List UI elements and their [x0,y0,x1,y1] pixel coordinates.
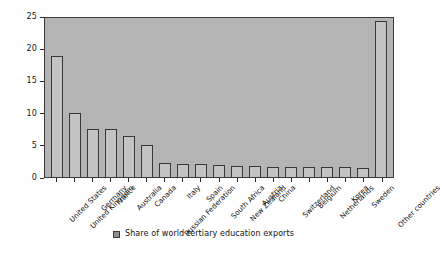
bar-slot [174,18,192,177]
y-axis-tick-label: 10 [27,110,40,118]
x-axis-label-slot: United States [47,182,65,228]
bar-slot [354,18,372,177]
legend-label: Share of world tertiary education export… [125,230,294,238]
legend: Share of world tertiary education export… [0,230,407,238]
bar-slot [102,18,120,177]
bar-slot [300,18,318,177]
bar[interactable] [141,145,152,177]
x-axis-label-slot: South Africa [210,182,228,228]
x-axis-label-slot: Netherlands [319,182,337,228]
x-axis-label-slot: Canada [138,182,156,228]
bar[interactable] [159,163,170,177]
x-axis-label-slot: Australia [119,182,137,228]
bar[interactable] [267,167,278,177]
x-axis-label-slot: France [101,182,119,228]
bar-slot [246,18,264,177]
x-axis-label-slot: Belgium [301,182,319,228]
x-axis-label-slot: Korea [337,182,355,228]
bar[interactable] [69,113,80,177]
x-axis-label-slot: United Kingdom [65,182,83,228]
x-axis-label-slot: Switzerland [282,182,300,228]
plot-area [44,17,394,178]
bar-slot [192,18,210,177]
bar-slot [336,18,354,177]
x-axis-label-slot: China [264,182,282,228]
bar-slot [318,18,336,177]
x-axis-label-slot: Other countries [373,182,391,228]
bar-slot [372,18,390,177]
bar-slot [228,18,246,177]
bar[interactable] [51,56,62,177]
bar[interactable] [357,168,368,177]
bar-slot [120,18,138,177]
bar-slot [84,18,102,177]
x-axis-label-slot: Italy [174,182,192,228]
legend-swatch-icon [113,231,120,238]
bar-slot [138,18,156,177]
bar-slot [48,18,66,177]
y-axis-tick-label: 15 [27,77,40,85]
x-axis-label-slot: Spain [192,182,210,228]
y-axis-tick-label: 5 [32,142,40,150]
bar[interactable] [303,167,314,177]
x-axis-label-slot: New Zealand [228,182,246,228]
x-axis-label-slot: Sweden [355,182,373,228]
bar[interactable] [213,165,224,177]
bar-slot [282,18,300,177]
bar[interactable] [195,164,206,177]
bar-slot [264,18,282,177]
bar[interactable] [105,129,116,177]
bar[interactable] [231,166,242,177]
bars-layer [45,18,393,177]
bar[interactable] [375,21,386,177]
y-axis: 0510152025 [0,17,44,178]
x-axis-label: Other countries [396,184,441,229]
bar[interactable] [249,166,260,177]
bar-slot [210,18,228,177]
bar[interactable] [177,164,188,177]
x-axis-labels: United StatesUnited KingdomGermanyFrance… [44,182,394,228]
x-axis-label-slot: Russian Federation [156,182,174,228]
y-axis-tick-label: 20 [27,45,40,53]
bar[interactable] [285,167,296,177]
bar-slot [66,18,84,177]
x-axis-label-slot: Austria [246,182,264,228]
y-axis-tick-label: 25 [27,13,40,21]
x-axis-label-slot: Germany [83,182,101,228]
bar[interactable] [321,167,332,177]
bar[interactable] [123,136,134,177]
y-axis-tick-label: 0 [32,174,40,182]
bar[interactable] [339,167,350,177]
bar-slot [156,18,174,177]
bar[interactable] [87,129,98,177]
